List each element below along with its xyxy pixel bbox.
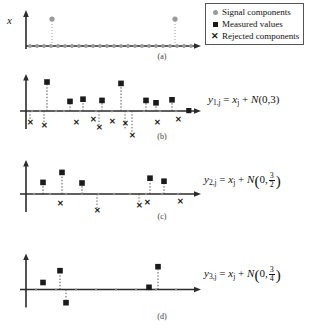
equation-panel-d: y3,j = xj + N(0,34) — [204, 266, 281, 284]
measured-stems-b — [44, 79, 191, 113]
legend: Signal components Measured values ✕ Reje… — [205, 3, 304, 45]
panel-c: ✕ ✕ ✕ ✕ ✕ y2,j = xj + N(0,32) (c) — [0, 152, 324, 226]
panel-caption-c: (c) — [0, 212, 324, 221]
svg-text:✕: ✕ — [144, 198, 151, 207]
svg-text:✕: ✕ — [154, 118, 161, 127]
eq-d-var-den: 4 — [269, 275, 275, 283]
eq-b-mean: 0 — [262, 93, 268, 105]
legend-item-rejected: ✕ Rejected components — [209, 30, 299, 42]
eq-c-mean: 0 — [259, 173, 265, 185]
panel-caption-d: (d) — [0, 312, 324, 321]
eq-b-rhs-sub: j — [237, 98, 239, 107]
figure-root: x — [0, 0, 324, 333]
panel-b: ✕ ✕ ✕ ✕ ✕ ✕ ✕ ✕ ✕ ✕ y1,j = xj + N(0,3) ( — [0, 68, 324, 146]
eq-c-rhs-sub: j — [233, 178, 235, 187]
svg-text:✕: ✕ — [175, 115, 182, 124]
eq-b-lhs-sub: 1,j — [213, 98, 221, 107]
eq-d-mean: 0 — [259, 267, 265, 279]
rejected-cross-icon: ✕ — [209, 32, 221, 41]
svg-text:✕: ✕ — [122, 119, 129, 128]
signal-nonzero-stems — [49, 16, 177, 46]
panel-d: y3,j = xj + N(0,34) (d) — [0, 240, 324, 333]
eq-d-rhs-sub: j — [233, 272, 235, 281]
svg-text:✕: ✕ — [73, 118, 80, 127]
legend-label-measured: Measured values — [222, 19, 283, 29]
equation-panel-c: y2,j = xj + N(0,32) — [204, 172, 281, 190]
svg-text:✕: ✕ — [27, 118, 34, 127]
legend-label-rejected: Rejected components — [222, 31, 299, 41]
svg-text:✕: ✕ — [109, 117, 116, 126]
svg-text:✕: ✕ — [41, 121, 48, 130]
eq-b-variance: 3 — [270, 93, 276, 105]
legend-item-signal: Signal components — [209, 6, 299, 18]
legend-item-measured: Measured values — [209, 18, 299, 30]
measured-stems-c — [40, 170, 167, 194]
signal-circle-icon — [209, 10, 221, 15]
eq-d-variance-fraction: 34 — [269, 266, 275, 284]
svg-text:✕: ✕ — [177, 197, 184, 206]
legend-label-signal: Signal components — [222, 7, 291, 17]
svg-text:✕: ✕ — [57, 199, 64, 208]
svg-text:✕: ✕ — [136, 201, 143, 210]
eq-c-variance-fraction: 32 — [269, 172, 275, 190]
panel-caption-b: (b) — [0, 132, 324, 141]
panel-a: x — [0, 0, 324, 66]
panel-caption-a: (a) — [0, 52, 324, 61]
measured-square-icon — [209, 22, 221, 27]
measured-stems-d — [40, 264, 161, 306]
eq-b-dist: N — [251, 93, 258, 105]
eq-c-var-den: 2 — [269, 181, 275, 189]
svg-text:✕: ✕ — [96, 123, 103, 132]
equation-panel-b: y1,j = xj + N(0,3) — [208, 93, 279, 107]
eq-d-lhs-sub: 3,j — [209, 272, 217, 281]
eq-c-lhs-sub: 2,j — [209, 178, 217, 187]
